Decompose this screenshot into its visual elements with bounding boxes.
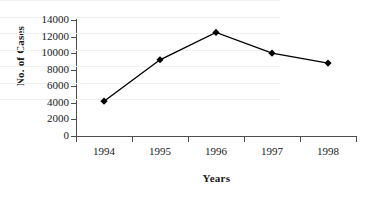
x-axis-tick <box>188 137 189 142</box>
x-axis-tick-label: 1997 <box>244 145 300 157</box>
x-axis-tick-label: 1995 <box>132 145 188 157</box>
x-axis-tick <box>356 137 357 142</box>
series-line <box>104 32 328 101</box>
x-axis-tick <box>300 137 301 142</box>
x-axis-tick-label: 1996 <box>188 145 244 157</box>
x-axis-line <box>76 136 357 137</box>
data-point-marker <box>324 59 331 66</box>
data-series <box>76 20 356 136</box>
y-axis-title: No. of Cases <box>14 0 26 120</box>
gridline <box>0 0 280 1</box>
data-point-marker <box>268 50 275 57</box>
x-axis-tick-label: 1998 <box>300 145 356 157</box>
x-axis-tick <box>244 137 245 142</box>
x-axis-tick <box>132 137 133 142</box>
x-axis-tick <box>76 137 77 142</box>
line-chart: No. of Cases 020004000600080001000012000… <box>0 0 375 202</box>
data-point-marker <box>212 29 219 36</box>
x-axis-title: Years <box>76 172 357 184</box>
x-axis-tick-label: 1994 <box>76 145 132 157</box>
series-markers <box>100 29 331 105</box>
